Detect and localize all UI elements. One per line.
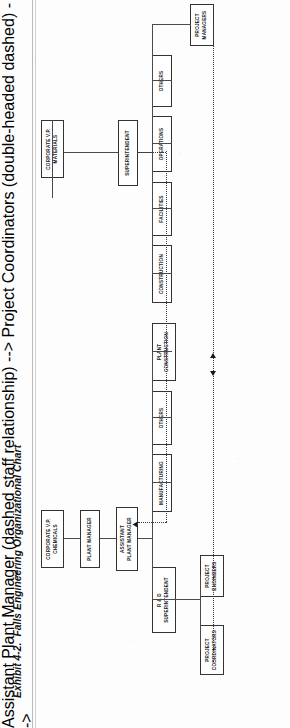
box-label-line2: SUPERINTENDENT xyxy=(164,577,171,623)
arrow-to-assistant-plant-manager xyxy=(133,522,138,528)
box-label-line1: OPERATIONS xyxy=(159,128,166,161)
box-superintendent[interactable]: SUPERINTENDENT xyxy=(118,120,138,186)
box-others-bottom[interactable]: OTHERS xyxy=(152,391,172,445)
box-label-line1: OTHERS xyxy=(159,71,166,92)
box-project-coordinators[interactable]: PROJECT COORDINATORS xyxy=(200,625,224,675)
box-project-engineers[interactable]: PROJECT ENGINEERS xyxy=(200,555,224,597)
box-label-line1: SUPERINTENDENT xyxy=(125,130,132,176)
box-label-line1: CORPORATE V.P. xyxy=(46,518,53,559)
connector-plant-manager-to-assistant xyxy=(100,538,116,539)
dotted-superintendent-to-assistant-run xyxy=(166,151,167,523)
box-project-managers[interactable]: PROJECT MANAGERS xyxy=(190,4,214,46)
connector-rd-drop xyxy=(176,599,200,600)
connector-bus-to-project-managers xyxy=(152,24,190,25)
dotted-project-managers-link xyxy=(213,22,214,662)
box-corporate-vp-chemicals[interactable]: CORPORATE V.P. CHEMICALS xyxy=(41,510,64,568)
connector-materials-to-superintendent xyxy=(52,120,53,178)
connector-bus-to-construction xyxy=(152,273,172,274)
box-label-line2: MATERIALS xyxy=(53,128,60,169)
connector-assistant-bus xyxy=(152,352,153,600)
arrowhead-toward-project-coordinators xyxy=(210,371,216,376)
box-label-line2: CHEMICALS xyxy=(53,518,60,559)
box-label-line1: FACILITIES xyxy=(159,195,166,222)
org-chart-stage: Exhibit 4-2. Falls Engineering Organizat… xyxy=(0,0,290,728)
connector-assistant-bus-drop xyxy=(138,538,152,539)
box-label-line2: CONSTRUCTION xyxy=(164,332,171,372)
connector-bus-to-rd-superintendent xyxy=(152,599,176,600)
box-label-line1: R & D xyxy=(157,577,164,623)
arrowhead-toward-project-managers xyxy=(210,353,216,358)
box-rd-superintendent[interactable]: R & D SUPERINTENDENT xyxy=(152,567,176,633)
box-label-line2: MANAGERS xyxy=(202,11,209,40)
connector-bus-to-facilities xyxy=(152,208,172,209)
box-manufacturing[interactable]: MANUFACTURING xyxy=(152,454,172,512)
box-label-line1: PLANT xyxy=(157,332,164,372)
dotted-assistant-approach xyxy=(138,522,166,523)
connector-bus-to-others-bottom xyxy=(152,417,172,418)
box-label-line1: PROJECT xyxy=(205,561,212,590)
connector-project-managers-stub xyxy=(190,24,191,25)
box-plant-construction[interactable]: PLANT CONSTRUCTION xyxy=(152,323,176,381)
connector-rd-bus xyxy=(200,576,201,650)
connector-bus-to-plant-construction xyxy=(152,351,172,352)
box-construction[interactable]: CONSTRUCTION xyxy=(152,245,172,303)
box-assistant-plant-manager[interactable]: ASSISTANT PLANT MANAGER xyxy=(116,507,138,571)
connector-rd-to-project-coordinators xyxy=(200,649,201,650)
connector-bus-to-others-top xyxy=(152,80,172,81)
box-label-line1: CONSTRUCTION xyxy=(159,254,166,294)
box-plant-manager[interactable]: PLANT MANAGER xyxy=(80,510,100,568)
box-operations[interactable]: OPERATIONS xyxy=(152,116,172,172)
box-label-line1: PROJECT xyxy=(205,630,212,670)
connector-superintendent-drop xyxy=(64,152,118,153)
connector-bus-to-operations xyxy=(152,143,172,144)
box-others-top[interactable]: OTHERS xyxy=(152,55,172,107)
box-label-line1: OTHERS xyxy=(159,408,166,429)
page-title: Exhibit 4-2. Falls Engineering Organizat… xyxy=(12,445,23,698)
box-facilities[interactable]: FACILITIES xyxy=(152,182,172,236)
scanned-page: Exhibit 4-2. Falls Engineering Organizat… xyxy=(0,0,290,728)
box-label-line1: PROJECT xyxy=(195,11,202,40)
connector-rd-to-project-engineers xyxy=(200,575,201,576)
box-label-line1: MANUFACTURING xyxy=(159,461,166,505)
connector-bus-to-manufacturing xyxy=(152,482,172,483)
dotted-superintendent-stub xyxy=(138,152,166,153)
connector-superintendent-feed xyxy=(52,176,53,198)
box-label-line1: PLANT MANAGER xyxy=(87,517,94,561)
connector-chemicals-to-plant-manager xyxy=(64,538,80,539)
connector-superintendent-bus xyxy=(152,25,153,275)
box-label-line1: ASSISTANT xyxy=(120,517,127,561)
